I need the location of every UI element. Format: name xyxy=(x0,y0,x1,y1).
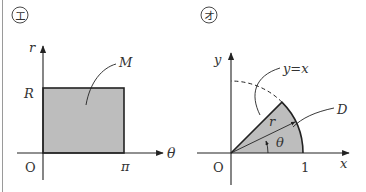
region-label: D xyxy=(336,102,348,117)
panel-marker: オ xyxy=(204,10,215,23)
region-leader xyxy=(293,108,334,127)
dashed-arc xyxy=(231,81,282,102)
origin-label: O xyxy=(25,160,36,175)
angle-label: θ xyxy=(276,135,284,150)
line-label: y=x xyxy=(282,61,309,76)
panel-o: オ y y=x D r θ O 1 x xyxy=(197,7,349,185)
region-label: M xyxy=(118,55,133,70)
figure: エ r R M O π θ オ y y=x D r θ O xyxy=(0,0,366,192)
radius-label: r xyxy=(269,114,276,129)
r-axis-label: r xyxy=(29,40,36,55)
y-axis-label: y xyxy=(213,52,222,67)
x-tick-label: 1 xyxy=(301,160,309,175)
theta-axis-label: θ xyxy=(167,145,176,161)
region-m xyxy=(43,88,124,153)
r-tick-label: R xyxy=(23,86,34,101)
x-axis-label: x xyxy=(340,156,348,171)
panel-e: エ r R M O π θ xyxy=(12,7,176,180)
origin-label: O xyxy=(213,160,224,175)
panel-marker: エ xyxy=(15,10,26,23)
theta-tick-label: π xyxy=(120,159,130,174)
